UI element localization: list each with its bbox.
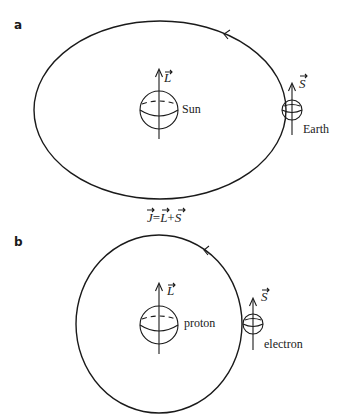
spin-orbit-diagram: a L Sun S Earth xyxy=(0,0,342,420)
electron-body: S electron xyxy=(243,288,303,351)
orbit-ellipse xyxy=(34,21,286,199)
electron-label: electron xyxy=(264,337,303,351)
panel-b: b L proton S electron xyxy=(14,235,303,413)
earth-label: Earth xyxy=(303,122,329,136)
panel-label-b: b xyxy=(14,235,23,249)
panel-a: a L Sun S Earth xyxy=(14,18,329,199)
equation-L: L xyxy=(159,210,167,225)
panel-label-a: a xyxy=(14,18,22,32)
equation-S: S xyxy=(175,210,182,225)
vector-S-label: S xyxy=(261,289,268,304)
sun-label: Sun xyxy=(182,102,201,116)
svg-text:J=L+S: J=L+S xyxy=(147,210,182,225)
vector-S-label: S xyxy=(299,76,306,91)
earth-body: S Earth xyxy=(282,74,329,136)
proton-body: L proton xyxy=(140,283,215,354)
proton-label: proton xyxy=(184,316,215,330)
sun-body: L Sun xyxy=(140,69,201,139)
total-angular-momentum-equation: J=L+S xyxy=(147,208,185,225)
equation-plus: + xyxy=(167,210,174,225)
equation-equals: = xyxy=(153,210,160,225)
